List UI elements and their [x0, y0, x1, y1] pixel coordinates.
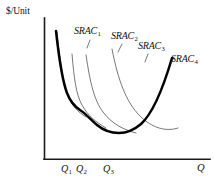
srac-1-label-text: SRAC [74, 25, 97, 36]
srac-3-label: SRAC3 [138, 41, 165, 51]
srac-3-label-text: SRAC [138, 40, 161, 51]
srac-2-label: SRAC2 [111, 31, 138, 41]
x-tick-q1-sub: 1 [68, 168, 72, 175]
cost-curve-plot [0, 0, 215, 182]
x-tick-label-q2: Q2 [76, 164, 87, 174]
x-tick-q2-sub: 2 [83, 168, 87, 175]
cost-curve-figure: $/Unit SRAC1 SRAC2 SRAC3 SRAC4 Q1 Q2 Q3 … [0, 0, 215, 182]
srac-4-label: SRAC4 [171, 54, 198, 64]
srac-3-leader [145, 54, 148, 62]
x-tick-label-q1: Q1 [61, 164, 72, 174]
srac-1-label: SRAC1 [74, 26, 101, 36]
srac-3-label-sub: 3 [161, 45, 165, 52]
srac-4-label-sub: 4 [194, 58, 198, 65]
y-axis-label: $/Unit [6, 7, 30, 17]
srac-2-label-text: SRAC [111, 30, 134, 41]
srac-1-leader [87, 40, 90, 48]
srac-4-label-text: SRAC [171, 53, 194, 64]
x-axis-label: Q [197, 163, 205, 174]
srac-2-leader [118, 44, 122, 52]
x-tick-label-q3: Q3 [103, 164, 114, 174]
x-tick-q3-sub: 3 [110, 168, 114, 175]
srac-1-label-sub: 1 [97, 30, 101, 37]
